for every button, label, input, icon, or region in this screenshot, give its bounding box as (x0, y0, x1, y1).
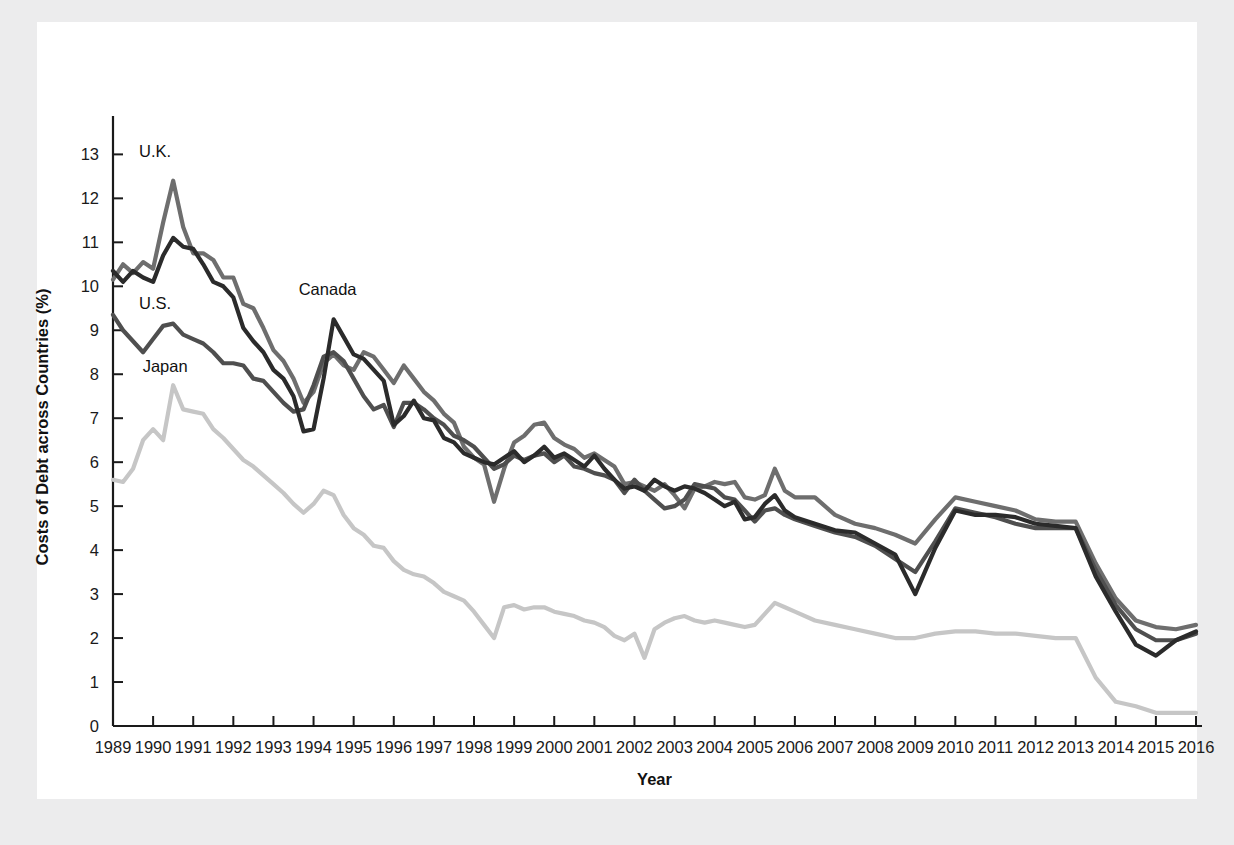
series-annotation-uk: U.K. (139, 142, 171, 160)
x-tick-label: 2009 (897, 738, 934, 756)
x-tick-label: 1990 (135, 738, 172, 756)
x-tick-label: 1994 (295, 738, 332, 756)
axis-labels: 0123456789101112131989199019911992199319… (33, 145, 1214, 788)
x-tick-label: 1996 (375, 738, 412, 756)
x-tick-label: 2011 (978, 738, 1013, 756)
series-line-uk (113, 181, 1196, 630)
x-tick-label: 2004 (696, 738, 733, 756)
y-tick-label: 5 (90, 497, 99, 515)
x-tick-label: 1991 (175, 738, 212, 756)
y-tick-label: 9 (90, 321, 99, 339)
x-tick-label: 2010 (937, 738, 974, 756)
series-line-us (113, 315, 1196, 640)
x-tick-label: 2005 (736, 738, 773, 756)
y-tick-label: 4 (90, 541, 99, 559)
y-tick-label: 13 (81, 145, 99, 163)
x-tick-label: 1999 (496, 738, 533, 756)
x-tick-label: 2000 (536, 738, 573, 756)
x-tick-label: 1993 (255, 738, 292, 756)
x-tick-label: 2003 (656, 738, 693, 756)
series-line-japan (113, 385, 1196, 713)
x-tick-label: 2008 (857, 738, 894, 756)
y-tick-label: 8 (90, 365, 99, 383)
series-line-canada (113, 238, 1196, 656)
y-tick-label: 6 (90, 453, 99, 471)
series-annotation-canada: Canada (299, 280, 358, 298)
x-tick-label: 2015 (1138, 738, 1175, 756)
x-tick-label: 2013 (1057, 738, 1094, 756)
x-tick-label: 2014 (1097, 738, 1134, 756)
x-tick-label: 1998 (456, 738, 493, 756)
series-lines (113, 181, 1196, 713)
x-tick-label: 1997 (416, 738, 453, 756)
series-annotation-japan: Japan (143, 357, 188, 375)
y-tick-label: 10 (81, 277, 99, 295)
x-tick-label: 2016 (1178, 738, 1215, 756)
y-tick-label: 7 (90, 409, 99, 427)
x-tick-label: 2006 (777, 738, 814, 756)
x-tick-label: 2001 (576, 738, 613, 756)
x-tick-label: 1989 (95, 738, 132, 756)
series-annotation-us: U.S. (139, 294, 171, 312)
x-tick-label: 2007 (817, 738, 854, 756)
x-tick-label: 2002 (616, 738, 653, 756)
y-tick-label: 0 (90, 717, 99, 735)
y-tick-label: 2 (90, 629, 99, 647)
x-tick-label: 1992 (215, 738, 252, 756)
series-annotations: U.K.U.S.JapanCanada (139, 142, 357, 375)
x-tick-label: 2012 (1017, 738, 1054, 756)
x-tick-label: 1995 (335, 738, 372, 756)
line-chart: 0123456789101112131989199019911992199319… (0, 0, 1234, 845)
y-tick-label: 1 (90, 673, 99, 691)
y-axis-title: Costs of Debt across Countries (%) (33, 289, 51, 566)
figure-root: 0123456789101112131989199019911992199319… (0, 0, 1234, 845)
y-tick-label: 11 (82, 233, 99, 251)
y-tick-label: 3 (90, 585, 99, 603)
x-axis-title: Year (637, 770, 672, 788)
y-tick-label: 12 (81, 189, 99, 207)
